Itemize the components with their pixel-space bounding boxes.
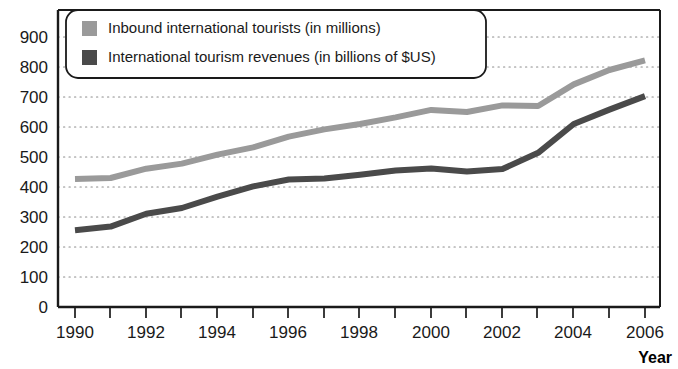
x-tick-label-1994: 1994	[198, 323, 236, 342]
y-tick-label-900: 900	[20, 28, 48, 47]
x-tick-label-2004: 2004	[554, 323, 592, 342]
y-tick-label-100: 100	[20, 268, 48, 287]
x-tick-label-1998: 1998	[340, 323, 378, 342]
chart-legend: Inbound international tourists (in milli…	[66, 10, 486, 78]
y-tick-label-600: 600	[20, 118, 48, 137]
x-tick-label-2002: 2002	[483, 323, 521, 342]
x-tick-label-2000: 2000	[412, 323, 450, 342]
x-tick-label-1990: 1990	[56, 323, 94, 342]
tourism-line-chart: 900 800 700 600 500 400 300 200 100 0 19…	[0, 0, 678, 369]
y-tick-label-0: 0	[39, 298, 48, 317]
y-tick-label-800: 800	[20, 58, 48, 77]
x-axis-labels: 1990 1992 1994 1996 1998 2000 2002 2004 …	[56, 323, 664, 342]
y-tick-label-700: 700	[20, 88, 48, 107]
y-tick-label-400: 400	[20, 178, 48, 197]
legend-swatch-inbound-tourists	[82, 21, 97, 36]
x-tick-label-2006: 2006	[626, 323, 664, 342]
x-axis-title: Year	[638, 349, 672, 366]
x-tick-label-1992: 1992	[127, 323, 165, 342]
y-tick-label-200: 200	[20, 238, 48, 257]
y-tick-label-300: 300	[20, 208, 48, 227]
y-tick-label-500: 500	[20, 148, 48, 167]
legend-label-tourism-revenues: International tourism revenues (in billi…	[108, 48, 436, 65]
chart-container: 900 800 700 600 500 400 300 200 100 0 19…	[0, 0, 678, 369]
legend-label-inbound-tourists: Inbound international tourists (in milli…	[108, 19, 381, 36]
x-tick-label-1996: 1996	[269, 323, 307, 342]
legend-swatch-tourism-revenues	[82, 50, 97, 65]
